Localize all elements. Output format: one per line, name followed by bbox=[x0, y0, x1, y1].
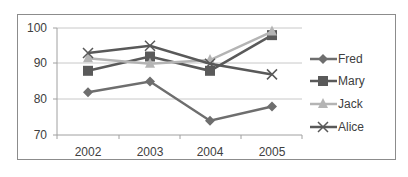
legend-square-icon bbox=[318, 76, 328, 86]
series-line-mary bbox=[88, 35, 272, 71]
legend-label-fred: Fred bbox=[338, 52, 363, 66]
x-tick-label: 2003 bbox=[137, 145, 164, 159]
x-tick-label: 2002 bbox=[75, 145, 102, 159]
diamond-marker-icon bbox=[83, 87, 93, 97]
legend-label-jack: Jack bbox=[338, 97, 364, 111]
legend-label-alice: Alice bbox=[338, 120, 364, 134]
x-tick-label: 2005 bbox=[259, 145, 286, 159]
legend bbox=[310, 54, 337, 132]
line-chart: 100 90 80 70 2002 2003 2004 2005 Fred Ma… bbox=[0, 0, 408, 177]
y-tick-label: 80 bbox=[34, 92, 48, 106]
series-layer bbox=[83, 26, 277, 126]
series-line-fred bbox=[88, 82, 272, 121]
diamond-marker-icon bbox=[267, 101, 277, 111]
y-tick-label: 100 bbox=[27, 21, 47, 35]
series-line-jack bbox=[88, 32, 272, 64]
legend-diamond-icon bbox=[318, 54, 328, 64]
legend-label-mary: Mary bbox=[338, 74, 365, 88]
x-tick-label: 2004 bbox=[197, 145, 224, 159]
square-marker-icon bbox=[83, 66, 93, 76]
y-tick-label: 90 bbox=[34, 56, 48, 70]
y-tick-label: 70 bbox=[34, 128, 48, 142]
